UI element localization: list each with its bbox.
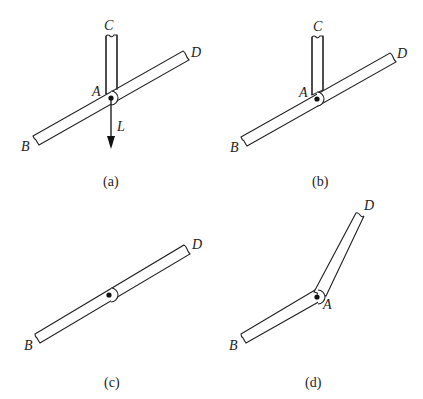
arrowhead-icon (107, 136, 115, 149)
pin-dot (106, 292, 111, 297)
label-d: D (396, 46, 407, 61)
label-c: C (104, 18, 114, 33)
panel-c: D B (c) (24, 237, 202, 391)
member-c (106, 35, 117, 94)
label-a: A (298, 85, 308, 100)
member-c (312, 36, 323, 95)
pin-dot (314, 96, 319, 101)
label-a: A (91, 84, 101, 99)
label-d: D (191, 237, 202, 252)
caption-c: (c) (104, 375, 120, 391)
label-a: A (322, 297, 332, 312)
caption-d: (d) (305, 375, 322, 391)
label-b: B (229, 338, 238, 353)
panel-b: C D A B (b) (230, 19, 407, 190)
panel-d: D A B (d) (229, 198, 374, 391)
label-l: L (116, 119, 125, 134)
label-d: D (190, 45, 201, 60)
label-b: B (24, 338, 33, 353)
label-c: C (313, 19, 323, 34)
label-b: B (230, 140, 239, 155)
label-d: D (363, 198, 374, 213)
caption-a: (a) (103, 174, 119, 190)
panel-a: C D A B L (a) (21, 18, 201, 190)
caption-b: (b) (312, 174, 329, 190)
label-b: B (21, 139, 30, 154)
member-ad (314, 213, 364, 296)
member-ba (241, 290, 322, 343)
pin-dot (314, 294, 319, 299)
figure-canvas: C D A B L (a) C D A B (b) D B (c) D A B (0, 0, 423, 399)
